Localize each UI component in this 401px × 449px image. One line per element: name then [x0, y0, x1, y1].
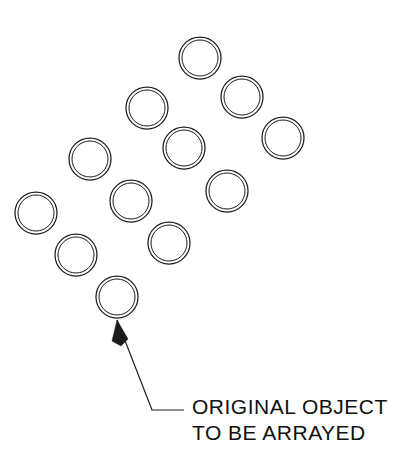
callout-text-line-2: TO BE ARRAYED: [192, 421, 366, 444]
callout-text-line-1: ORIGINAL OBJECT: [192, 395, 388, 418]
drawing-background: [0, 0, 401, 449]
technical-drawing-canvas: ORIGINAL OBJECT TO BE ARRAYED: [0, 0, 401, 449]
array-drawing-svg: ORIGINAL OBJECT TO BE ARRAYED: [0, 0, 401, 449]
